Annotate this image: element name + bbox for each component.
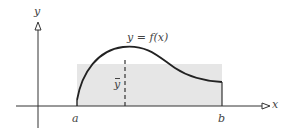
diagram-canvas xyxy=(0,0,283,136)
x-axis-arrow-icon xyxy=(262,103,270,109)
y-axis-arrow-icon xyxy=(35,22,41,30)
curve-label: y = f(x) xyxy=(127,32,168,43)
y-axis-label: y xyxy=(34,6,40,17)
y-bar-symbol: y xyxy=(114,79,120,90)
mean-value-label: y xyxy=(114,79,120,90)
mean-value-rectangle xyxy=(77,64,222,106)
interval-end-label: b xyxy=(218,113,225,124)
interval-start-label: a xyxy=(72,113,79,124)
x-axis-label: x xyxy=(272,99,278,110)
mean-value-diagram: y x y = f(x) y a b xyxy=(0,0,283,136)
